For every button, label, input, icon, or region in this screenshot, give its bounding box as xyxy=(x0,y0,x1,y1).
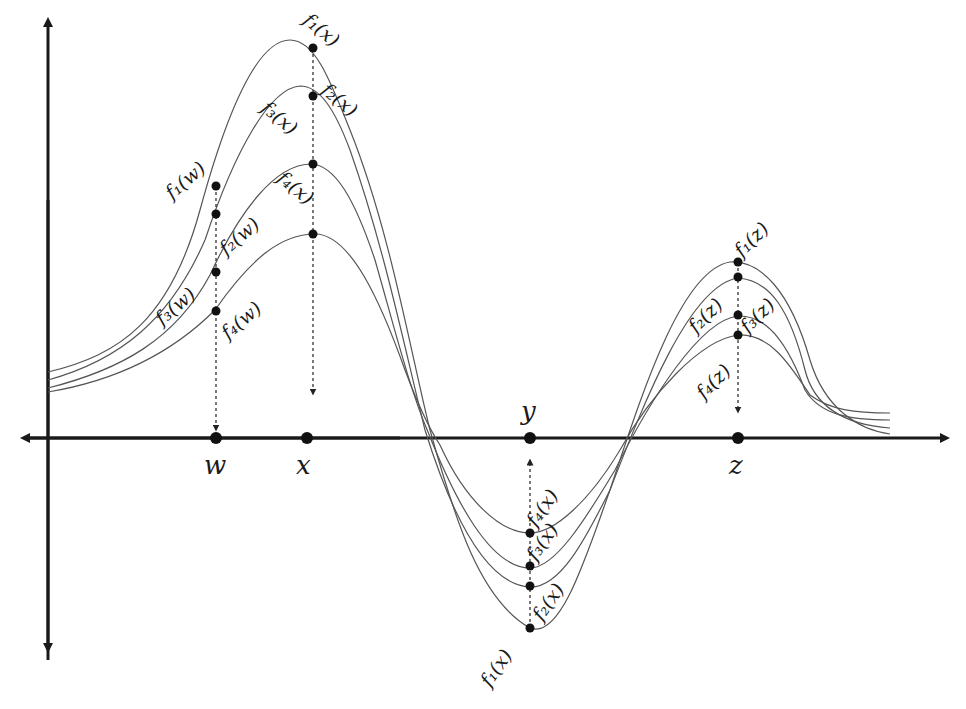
label-f1-y: f₁(x) xyxy=(474,645,516,692)
point-f4-x xyxy=(309,230,318,239)
point-f2-x xyxy=(309,92,318,101)
point-f2-w xyxy=(212,210,221,219)
label-f2-z: f₂(z) xyxy=(682,293,727,338)
axis-point-x xyxy=(301,432,313,444)
point-f2-z xyxy=(734,273,743,282)
point-f1-z xyxy=(734,258,743,267)
label-f3-y: f₃(x) xyxy=(520,519,562,566)
axis-label-w: w xyxy=(204,450,226,480)
label-f3-x: f₃(x) xyxy=(256,95,302,139)
label-f4-z: f₄(z) xyxy=(690,359,735,404)
axis-label-z: z xyxy=(728,450,743,480)
point-f4-z xyxy=(734,331,743,340)
point-f4-w xyxy=(212,307,221,316)
label-f1-z: f₁(z) xyxy=(728,217,773,262)
point-f3-y xyxy=(526,562,535,571)
point-f1-x xyxy=(309,44,318,53)
axis-label-y: y xyxy=(520,396,536,426)
axis-label-x: x xyxy=(296,450,311,480)
label-f1-w: f₁(w) xyxy=(159,157,210,205)
point-f3-x xyxy=(309,160,318,169)
point-f1-y xyxy=(526,624,535,633)
point-f3-w xyxy=(212,268,221,277)
diagram-canvas: w x y z f₁(w) f₂(w) f₃(w) f₄(w) f₁(x) f₂… xyxy=(0,0,966,709)
axis-point-z xyxy=(732,432,744,444)
label-f1-x: f₁(x) xyxy=(298,7,344,51)
point-f1-w xyxy=(212,182,221,191)
axis-point-y xyxy=(524,432,536,444)
curve-f2 xyxy=(48,86,890,587)
point-f2-y xyxy=(526,582,535,591)
axis-point-w xyxy=(210,432,222,444)
curve-f1 xyxy=(48,40,890,629)
label-f2-x: f₂(x) xyxy=(316,77,362,121)
label-f4-w: f₄(w) xyxy=(215,297,266,345)
label-f4-x: f₄(x) xyxy=(272,165,318,209)
function-diagram: w x y z f₁(w) f₂(w) f₃(w) f₄(w) f₁(x) f₂… xyxy=(0,0,966,709)
